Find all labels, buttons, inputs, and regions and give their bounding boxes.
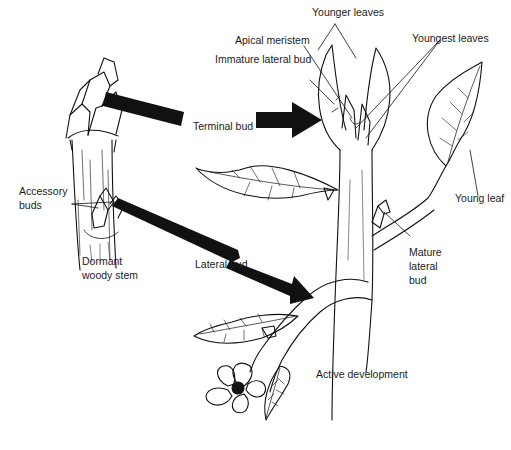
label-younger-leaves: Younger leaves <box>312 6 384 18</box>
flower-drawing <box>206 363 266 413</box>
label-accessory-buds-line2: buds <box>19 199 42 211</box>
label-dormant-line2: woody stem <box>82 269 138 281</box>
active-shoot-drawing <box>194 45 482 420</box>
diagram-artwork <box>0 0 511 450</box>
label-accessory-buds-line1: Accessory <box>19 185 67 197</box>
label-mature-lateral-line3: bud <box>409 274 427 286</box>
label-lateral-bud: Lateral bud <box>195 258 248 270</box>
label-youngest-leaves: Youngest leaves <box>412 32 489 44</box>
label-mature-lateral-line1: Mature <box>409 246 442 258</box>
label-young-leaf: Young leaf <box>455 192 504 204</box>
label-apical-meristem: Apical meristem <box>235 34 310 46</box>
label-terminal-bud: Terminal bud <box>193 120 253 132</box>
bud-development-diagram: Younger leaves Apical meristem Youngest … <box>0 0 511 450</box>
label-immature-lateral-bud: Immature lateral bud <box>215 53 311 65</box>
label-active-development: Active development <box>316 368 408 380</box>
dormant-stem-drawing <box>66 58 124 270</box>
label-mature-lateral-line2: lateral <box>409 260 438 272</box>
label-dormant-line1: Dormant <box>82 255 122 267</box>
